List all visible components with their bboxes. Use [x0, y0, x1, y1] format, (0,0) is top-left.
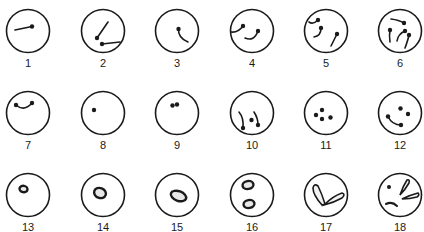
panel-label: 16 [246, 221, 258, 231]
oval-body [169, 189, 187, 203]
oval-body [19, 185, 28, 193]
dot [100, 42, 104, 46]
panel-label: 10 [246, 139, 258, 151]
panel-4: 4 [231, 10, 274, 70]
dot [320, 108, 324, 112]
cell-outline [156, 10, 199, 53]
dot [175, 102, 179, 106]
cell-outline [82, 92, 125, 135]
panel-14: 14 [82, 174, 125, 232]
panel-label: 6 [397, 57, 403, 69]
cell-outline [305, 92, 348, 135]
cell-outline [231, 92, 274, 135]
dot [388, 28, 392, 32]
panel-label: 7 [25, 139, 31, 151]
dot [407, 33, 411, 37]
petal-body [400, 180, 409, 195]
dot [316, 18, 320, 22]
dot [328, 115, 332, 119]
rod [245, 31, 258, 39]
panel-label: 13 [22, 221, 34, 231]
dot [406, 112, 410, 116]
dot [319, 26, 323, 30]
dot [398, 106, 402, 110]
cell-outline [7, 174, 50, 217]
panel-6: 6 [379, 10, 422, 70]
dot [403, 29, 407, 33]
dot [176, 27, 180, 31]
staged-diagram: 1 2 3 4 5 [0, 0, 424, 231]
dot [30, 101, 34, 105]
oval-body [243, 199, 255, 209]
panel-label: 8 [100, 139, 106, 151]
panel-label: 17 [320, 221, 332, 231]
rod [388, 117, 401, 126]
panel-label: 5 [323, 57, 329, 69]
cell-outline [7, 92, 50, 135]
panel-label: 9 [174, 139, 180, 151]
cell-outline [156, 92, 199, 135]
panel-2: 2 [82, 10, 125, 70]
panel-label: 15 [171, 221, 183, 231]
dot [256, 29, 260, 33]
petal-body [402, 193, 419, 199]
panel-10: 10 [231, 92, 274, 152]
dot [241, 24, 245, 28]
dot [14, 103, 18, 107]
dot [399, 123, 403, 127]
dot [402, 21, 406, 25]
dot [170, 103, 174, 107]
cell-outline [7, 10, 50, 53]
oval-body [93, 186, 108, 200]
panel-1: 1 [7, 10, 50, 70]
cell-outline [82, 10, 125, 53]
panel-15: 15 [156, 174, 199, 232]
cell-outline [231, 174, 274, 217]
panel-12: 12 [379, 92, 422, 152]
panel-9: 9 [156, 92, 199, 152]
petal-body [313, 185, 325, 205]
panel-label: 12 [394, 139, 406, 151]
rod [97, 22, 108, 38]
oval-body [242, 180, 254, 190]
rod [178, 29, 188, 42]
dot [387, 185, 391, 189]
panel-label: 14 [97, 221, 109, 231]
rod [102, 42, 120, 44]
panel-17: 17 [305, 174, 348, 232]
dot [249, 118, 253, 122]
cell-outline [379, 92, 422, 135]
dot [30, 24, 34, 28]
panel-8: 8 [82, 92, 125, 152]
rod [15, 27, 32, 31]
dot [386, 114, 390, 118]
panel-13: 13 [7, 174, 50, 232]
panel-label: 3 [174, 57, 180, 69]
dot [314, 113, 318, 117]
cell-outline [305, 10, 348, 53]
dot [92, 108, 96, 112]
dot [320, 117, 324, 121]
panel-5: 5 [305, 10, 348, 70]
panel-label: 4 [249, 57, 255, 69]
panel-label: 11 [320, 139, 331, 151]
dot [256, 123, 260, 127]
rod [239, 112, 243, 128]
panel-label: 2 [100, 57, 106, 69]
panel-18: 18 [379, 174, 422, 232]
cell-outline [379, 10, 422, 53]
panel-label: 18 [394, 221, 406, 231]
panel-label: 1 [25, 57, 31, 69]
panel-11: 11 [305, 92, 348, 152]
panel-3: 3 [156, 10, 199, 70]
dot [335, 32, 339, 36]
rod [386, 203, 397, 206]
dot [95, 36, 99, 40]
rod [16, 103, 32, 108]
petal-body [324, 193, 344, 205]
panel-7: 7 [7, 92, 50, 152]
dot [241, 126, 245, 130]
panel-16: 16 [231, 174, 274, 232]
